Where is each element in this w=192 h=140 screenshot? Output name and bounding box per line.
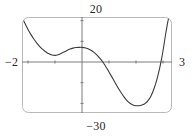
- y-axis-min-label: −30: [0, 120, 192, 132]
- x-axis-max-label: 3: [179, 56, 185, 68]
- y-axis-max-label: 20: [0, 3, 192, 15]
- graph-figure: 20 −30 −2 3: [0, 0, 192, 140]
- x-axis-min-label: −2: [5, 56, 18, 68]
